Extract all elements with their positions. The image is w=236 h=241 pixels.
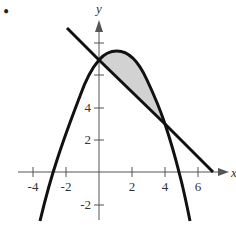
y-axis-arrow	[95, 20, 103, 32]
y-tick-label: 2	[85, 132, 92, 147]
x-axis-label: x	[230, 165, 236, 180]
x-tick-label: 6	[195, 179, 202, 194]
x-tick-label: -2	[61, 179, 72, 194]
y-axis-label: y	[94, 1, 102, 16]
y-tick-label: 4	[85, 100, 92, 115]
x-tick-label: 4	[162, 179, 169, 194]
chart-canvas: -4 -2 2 4 6 -2 2 4 x y	[0, 0, 236, 241]
x-tick-label: -4	[28, 179, 39, 194]
y-tick-label: -2	[80, 197, 91, 212]
x-tick-label: 2	[129, 179, 136, 194]
x-axis-arrow	[218, 168, 229, 176]
